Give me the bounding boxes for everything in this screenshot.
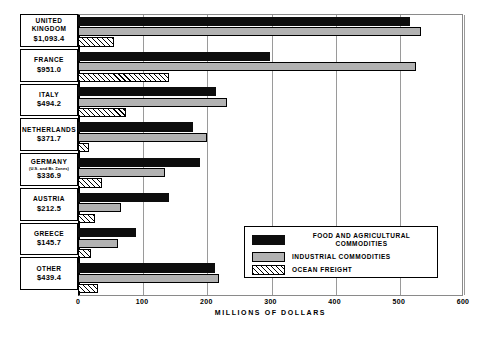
category-name: OTHER bbox=[37, 265, 62, 273]
x-tick-label-0: 0 bbox=[76, 298, 80, 305]
bar-ind bbox=[78, 168, 165, 177]
category-label-greece: GREECE$145.7 bbox=[20, 223, 78, 256]
category-name: ITALY bbox=[39, 91, 59, 99]
bar-food bbox=[78, 228, 136, 237]
bar-ind bbox=[78, 62, 416, 71]
legend-item: OCEAN FREIGHT bbox=[252, 265, 431, 275]
x-axis-ticks: 0100200300400500600 bbox=[78, 298, 463, 308]
legend-item: INDUSTRIAL COMMODITIES bbox=[252, 252, 431, 262]
category-total-value: $145.7 bbox=[37, 238, 61, 248]
x-tick-label-600: 600 bbox=[457, 298, 470, 305]
x-tick-label-300: 300 bbox=[264, 298, 277, 305]
bar-food bbox=[78, 263, 215, 272]
bar-food bbox=[78, 17, 410, 26]
legend-label: FOOD AND AGRICULTURAL bbox=[292, 232, 431, 240]
bar-ind bbox=[78, 27, 421, 36]
bar-ind bbox=[78, 203, 121, 212]
category-label-italy: ITALY$494.2 bbox=[20, 84, 78, 117]
bar-freight bbox=[78, 37, 114, 46]
x-tick-label-500: 500 bbox=[393, 298, 406, 305]
category-label-column: UNITEDKINGDOM$1,093.4FRANCE$951.0ITALY$4… bbox=[20, 14, 78, 292]
legend-label: INDUSTRIAL COMMODITIES bbox=[292, 253, 431, 261]
legend-swatch-ind-icon bbox=[252, 252, 285, 262]
bar-food bbox=[78, 52, 270, 61]
bar-ind bbox=[78, 239, 118, 248]
category-label-other: OTHER$439.4 bbox=[20, 257, 78, 290]
legend-swatch-freight-icon bbox=[252, 265, 285, 275]
category-label-austria: AUSTRIA$212.5 bbox=[20, 188, 78, 221]
category-name: GREECE bbox=[34, 230, 64, 238]
bar-ind bbox=[78, 133, 207, 142]
bar-group bbox=[78, 14, 463, 49]
bar-group bbox=[78, 49, 463, 84]
category-name: NETHERLANDS bbox=[22, 126, 76, 134]
category-total-value: $371.7 bbox=[37, 134, 61, 144]
category-sublabel: (U.S. and Br. Zones) bbox=[29, 166, 69, 171]
bar-food bbox=[78, 87, 216, 96]
x-tick-label-400: 400 bbox=[328, 298, 341, 305]
bar-group bbox=[78, 120, 463, 155]
bar-freight bbox=[78, 214, 95, 223]
bar-freight bbox=[78, 249, 91, 258]
bar-freight bbox=[78, 73, 169, 82]
category-name: UNITED bbox=[36, 17, 63, 25]
category-label-germany: GERMANY(U.S. and Br. Zones)$336.9 bbox=[20, 153, 78, 186]
legend-label-line2: COMMODITIES bbox=[292, 240, 431, 248]
bar-ind bbox=[78, 98, 227, 107]
category-name: GERMANY bbox=[31, 158, 67, 166]
category-name: FRANCE bbox=[34, 56, 64, 64]
category-total-value: $336.9 bbox=[37, 171, 61, 181]
legend-item: FOOD AND AGRICULTURALCOMMODITIES bbox=[252, 232, 431, 248]
category-label-france: FRANCE$951.0 bbox=[20, 49, 78, 82]
bar-group bbox=[78, 155, 463, 190]
category-name: AUSTRIA bbox=[33, 195, 65, 203]
category-total-value: $494.2 bbox=[37, 99, 61, 109]
bar-freight bbox=[78, 108, 126, 117]
chart-legend: FOOD AND AGRICULTURALCOMMODITIESINDUSTRI… bbox=[244, 226, 438, 278]
category-name: KINGDOM bbox=[32, 25, 67, 33]
bar-ind bbox=[78, 274, 219, 283]
bar-freight bbox=[78, 143, 89, 152]
category-label-netherlands: NETHERLANDS$371.7 bbox=[20, 118, 78, 151]
bar-food bbox=[78, 193, 169, 202]
category-total-value: $439.4 bbox=[37, 273, 61, 283]
bar-group bbox=[78, 85, 463, 120]
x-axis-title: MILLIONS OF DOLLARS bbox=[78, 309, 463, 316]
bar-freight bbox=[78, 284, 98, 293]
x-tick-label-100: 100 bbox=[136, 298, 149, 305]
gridline-600 bbox=[464, 15, 465, 295]
chart-root: UNITEDKINGDOM$1,093.4FRANCE$951.0ITALY$4… bbox=[0, 0, 485, 346]
bar-food bbox=[78, 158, 200, 167]
bar-food bbox=[78, 122, 193, 131]
legend-swatch-food-icon bbox=[252, 235, 285, 245]
bar-freight bbox=[78, 178, 102, 187]
x-tick-label-200: 200 bbox=[200, 298, 213, 305]
category-total-value: $212.5 bbox=[37, 204, 61, 214]
bar-group bbox=[78, 190, 463, 225]
category-total-value: $951.0 bbox=[37, 65, 61, 75]
category-label-united-kingdom: UNITEDKINGDOM$1,093.4 bbox=[20, 14, 78, 47]
legend-label: OCEAN FREIGHT bbox=[292, 266, 431, 274]
category-total-value: $1,093.4 bbox=[34, 34, 65, 44]
